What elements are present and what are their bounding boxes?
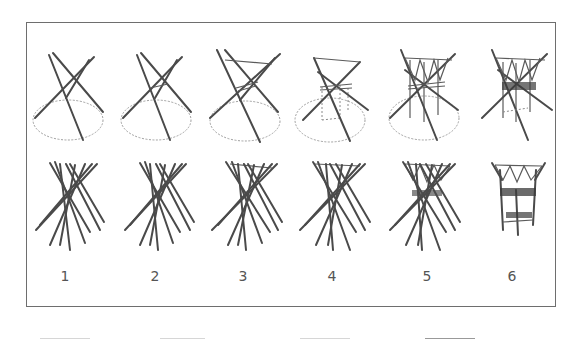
- stage-6-elevation: [492, 163, 545, 235]
- faint-rule: [425, 338, 475, 339]
- faint-rule: [40, 338, 90, 339]
- stage-5-plan: [389, 50, 459, 140]
- stage-label-4: 4: [317, 268, 347, 284]
- faint-rule: [300, 338, 350, 339]
- stage-1-elevation: [36, 162, 104, 250]
- stage-label-6: 6: [497, 268, 527, 284]
- stage-label-5: 5: [412, 268, 442, 284]
- stage-label-2: 2: [140, 268, 170, 284]
- stage-2-elevation: [125, 162, 194, 250]
- stage-4-elevation: [300, 162, 370, 250]
- faint-rule: [160, 338, 205, 339]
- stage-4-plan: [295, 58, 368, 142]
- stage-3-plan: [210, 50, 280, 142]
- stage-3-elevation: [212, 162, 282, 250]
- stage-label-1: 1: [50, 268, 80, 284]
- stage-6-plan: [482, 50, 552, 140]
- stage-2-plan: [121, 53, 191, 140]
- construction-stages-drawing: .s { stroke:#4a4a4a; stroke-width:2; fil…: [0, 0, 579, 342]
- stage-label-3: 3: [228, 268, 258, 284]
- stage-1-plan: [33, 53, 103, 140]
- stage-5-elevation: [390, 162, 460, 250]
